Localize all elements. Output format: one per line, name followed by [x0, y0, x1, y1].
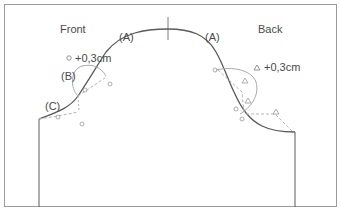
circle-marker	[56, 115, 60, 119]
triangle-marker	[242, 78, 248, 83]
label-c: (C)	[45, 100, 60, 112]
sleeve-cap-curve	[39, 29, 295, 132]
circle-marker	[108, 82, 112, 86]
triangle-marker	[273, 109, 279, 114]
front-label: Front	[60, 23, 86, 35]
circle-marker	[234, 107, 238, 111]
triangle-marker-legend	[254, 65, 260, 70]
triangle-marker	[245, 98, 251, 103]
sleeve-cap-diagram: Front Back (A) (A) (B) (C) +0,3cm +0,3cm	[0, 0, 341, 211]
front-dashed-guide-1	[78, 78, 105, 96]
back-label: Back	[258, 23, 283, 35]
label-b: (B)	[61, 70, 76, 82]
front-dashed-guide-2	[39, 112, 78, 119]
front-adjust-label: +0,3cm	[75, 52, 111, 64]
back-adjust-label: +0,3cm	[264, 61, 300, 73]
circle-marker	[240, 117, 244, 121]
circle-marker	[80, 122, 84, 126]
front-dashed-guide-3	[78, 96, 79, 110]
label-a-front: (A)	[119, 31, 134, 43]
circle-marker-legend	[67, 56, 71, 60]
back-dashed-guide-1	[218, 70, 244, 114]
label-a-back: (A)	[205, 31, 220, 43]
